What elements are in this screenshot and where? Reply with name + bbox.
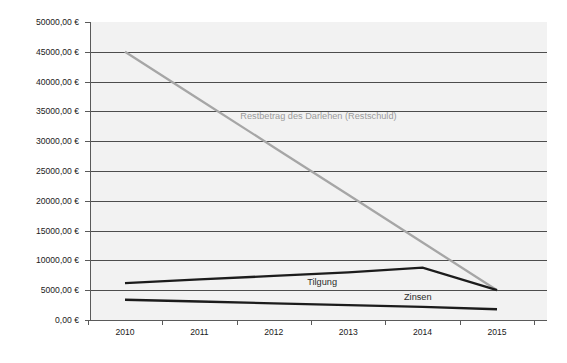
x-axis-tick-label: 2010 [115, 327, 134, 337]
chart-container: 0,00 €5000,00 €10000,00 €15000,00 €20000… [0, 0, 567, 363]
y-axis-tick-label: 15000,00 € [36, 226, 79, 236]
y-axis-tick-label: 10000,00 € [36, 255, 79, 265]
y-axis-tick-label: 45000,00 € [36, 47, 79, 57]
y-axis-tick-label: 25000,00 € [36, 166, 79, 176]
x-axis-tick-label: 2011 [190, 327, 209, 337]
series-label: Zinsen [404, 292, 432, 302]
series-label: Tilgung [307, 277, 337, 287]
y-axis-tick-label: 35000,00 € [36, 106, 79, 116]
y-axis-tick-label: 40000,00 € [36, 77, 79, 87]
y-axis-tick-label: 50000,00 € [36, 17, 79, 27]
y-axis-tick-label: 5000,00 € [41, 285, 79, 295]
y-axis-tick-label: 30000,00 € [36, 136, 79, 146]
y-axis-tick-label: 20000,00 € [36, 196, 79, 206]
line-chart: 0,00 €5000,00 €10000,00 €15000,00 €20000… [0, 0, 567, 363]
series-label: Restbetrag des Darlehen (Restschuld) [240, 111, 396, 121]
y-axis-tick-label: 0,00 € [55, 315, 79, 325]
x-axis-tick-label: 2014 [413, 327, 432, 337]
x-axis-tick-label: 2015 [487, 327, 506, 337]
x-axis-tick-label: 2013 [339, 327, 358, 337]
x-axis-tick-label: 2012 [264, 327, 283, 337]
